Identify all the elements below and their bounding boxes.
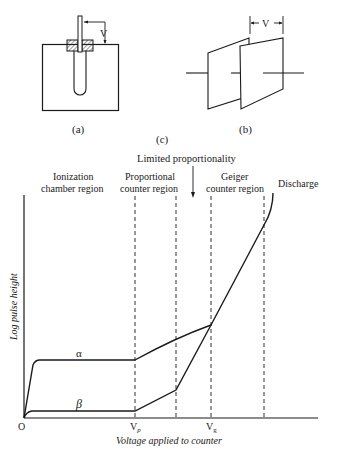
label-geiger-2: counter region: [206, 183, 264, 194]
origin-label: O: [18, 421, 25, 432]
caption-b: (b): [239, 123, 252, 136]
parallel-plate-diagram: V (b): [186, 16, 304, 136]
label-discharge: Discharge: [278, 178, 319, 189]
insulator-right: [82, 40, 93, 51]
y-axis-label: Log pulse height: [8, 273, 19, 341]
tick-vg: Vg: [206, 421, 217, 434]
label-limited-proportionality: Limited proportionality: [137, 153, 237, 164]
label-geiger-1: Geiger: [221, 171, 249, 182]
insulator-left: [67, 40, 78, 51]
voltage-label-a: V: [100, 28, 108, 39]
alpha-label: α: [76, 347, 82, 359]
caption-c: (c): [156, 133, 169, 146]
label-proportional-2: counter region: [120, 183, 178, 194]
inner-tube: [74, 51, 86, 95]
alpha-curve: [24, 193, 273, 418]
counter-body: [43, 45, 119, 111]
beta-label: β: [75, 397, 82, 411]
central-wire: [78, 16, 82, 52]
voltage-label-b: V: [262, 18, 270, 29]
region-boundaries: [135, 196, 264, 418]
label-ionization-1: Ionization: [53, 171, 94, 182]
tick-vp: Vp: [130, 421, 141, 434]
label-ionization-2: chamber region: [41, 183, 103, 194]
figure-canvas: V (a) V (b) (c) Limited proportionality …: [0, 0, 337, 459]
cylindrical-counter-diagram: V (a): [43, 16, 119, 136]
label-proportional-1: Proportional: [125, 171, 175, 182]
caption-a: (a): [72, 123, 85, 136]
pulse-height-chart: Limited proportionality Ionization chamb…: [8, 153, 319, 446]
x-axis-label: Voltage applied to counter: [116, 435, 222, 446]
beta-curve: [24, 325, 211, 418]
